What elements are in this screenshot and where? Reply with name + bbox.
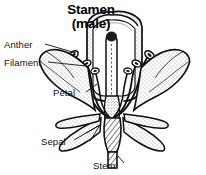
leader-stem <box>118 156 124 163</box>
label-sepal: Sepal <box>41 136 66 147</box>
label-petal: Petal <box>53 87 75 98</box>
stigma <box>107 32 117 41</box>
pistil <box>104 32 119 119</box>
flower-anatomy-figure: Stamen (male) Anther Filament Petal Sepa… <box>0 0 206 175</box>
label-anther: Anther <box>4 39 33 50</box>
figure-title-line2: (male) <box>56 17 126 32</box>
label-stem: Stem <box>93 160 116 171</box>
label-filament: Filament <box>4 57 41 68</box>
